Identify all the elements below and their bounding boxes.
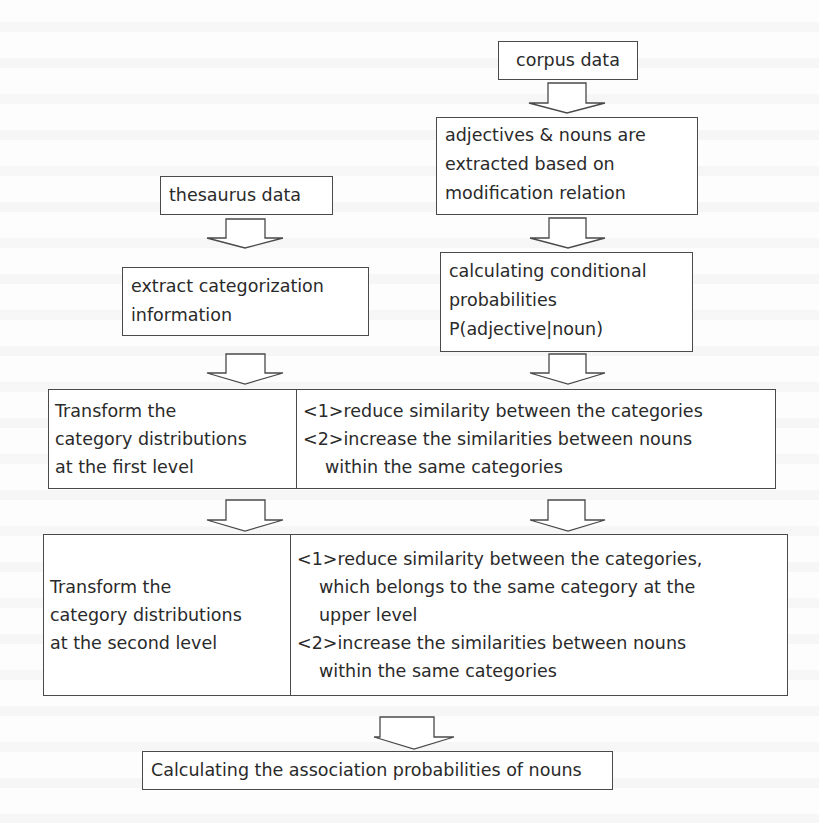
node-label: extracted based on (445, 150, 689, 179)
level1-description: Transform the category distributions at … (49, 390, 297, 488)
node-label: <1>reduce similarity between the categor… (303, 397, 769, 425)
node-label: which belongs to the same category at th… (297, 573, 781, 601)
arrow-down-icon (529, 83, 607, 115)
level2-operations: <1>reduce similarity between the categor… (291, 535, 787, 695)
node-label: extract categorization (131, 272, 360, 301)
node-calculating-conditional-probabilities: calculating conditional probabilities P(… (440, 252, 693, 352)
node-label: calculating conditional (449, 257, 684, 286)
node-label: within the same categories (297, 657, 781, 685)
arrow-down-icon (530, 218, 608, 250)
node-label: <2>increase the similarities between nou… (303, 425, 769, 453)
node-transform-first-level: Transform the category distributions at … (48, 389, 776, 489)
node-thesaurus-data: thesaurus data (160, 176, 333, 215)
node-label: modification relation (445, 179, 689, 208)
level1-operations: <1>reduce similarity between the categor… (297, 390, 775, 488)
node-label: adjectives & nouns are (445, 121, 689, 150)
node-label: category distributions (55, 425, 290, 453)
node-label: category distributions (50, 601, 284, 629)
arrow-down-icon (207, 500, 285, 532)
node-label: Transform the (50, 573, 284, 601)
node-label: within the same categories (303, 453, 769, 481)
node-label: at the second level (50, 629, 284, 657)
node-extract-categorization-information: extract categorization information (122, 267, 369, 336)
node-label: information (131, 301, 360, 330)
node-label: <1>reduce similarity between the categor… (297, 545, 781, 573)
node-corpus-data: corpus data (498, 41, 638, 80)
node-label: upper level (297, 601, 781, 629)
node-transform-second-level: Transform the category distributions at … (43, 534, 788, 696)
node-label: <2>increase the similarities between nou… (297, 629, 781, 657)
level2-description: Transform the category distributions at … (44, 535, 291, 695)
node-label: at the first level (55, 453, 290, 481)
arrow-down-icon (530, 500, 608, 532)
arrow-down-icon (207, 219, 285, 251)
node-label: P(adjective|noun) (449, 315, 684, 344)
node-label: corpus data (507, 42, 629, 78)
node-label: thesaurus data (169, 177, 324, 213)
arrow-down-icon (207, 354, 285, 386)
node-label: Calculating the association probabilitie… (151, 752, 604, 788)
arrow-down-icon (374, 717, 456, 751)
node-extract-adjectives-nouns: adjectives & nouns are extracted based o… (436, 117, 698, 215)
node-label: Transform the (55, 397, 290, 425)
node-label: probabilities (449, 286, 684, 315)
node-calculating-association-probabilities: Calculating the association probabilitie… (142, 751, 613, 790)
arrow-down-icon (530, 354, 608, 386)
